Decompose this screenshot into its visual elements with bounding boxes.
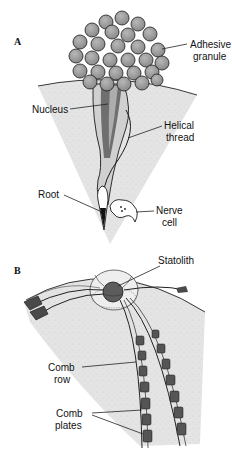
leader-adhesive-granule — [162, 44, 187, 49]
label-comb-row-line1: Comb — [48, 362, 75, 373]
panel-b: B — [14, 255, 205, 448]
panel-a: A — [14, 11, 232, 244]
label-statolith: Statolith — [158, 255, 194, 266]
label-nucleus: Nucleus — [32, 104, 68, 115]
label-helical-thread-line2: thread — [166, 132, 194, 143]
label-nerve-cell-line2: cell — [162, 217, 177, 228]
label-adhesive-granule-line1: Adhesive — [190, 39, 232, 50]
label-comb-row-line2: row — [54, 374, 71, 385]
label-nerve-cell-line1: Nerve — [156, 205, 183, 216]
label-comb-plates-line1: Comb — [56, 408, 83, 419]
label-adhesive-granule-line2: granule — [193, 51, 227, 62]
label-comb-plates-line2: plates — [55, 420, 82, 431]
adhesive-granule-cluster — [69, 11, 169, 91]
leader-nerve-cell — [136, 211, 154, 212]
label-helical-thread-line1: Helical — [164, 120, 194, 131]
figure-diagram: A — [0, 0, 232, 450]
label-root: Root — [38, 189, 59, 200]
panel-letter-a: A — [14, 36, 22, 47]
panel-letter-b: B — [14, 265, 21, 276]
